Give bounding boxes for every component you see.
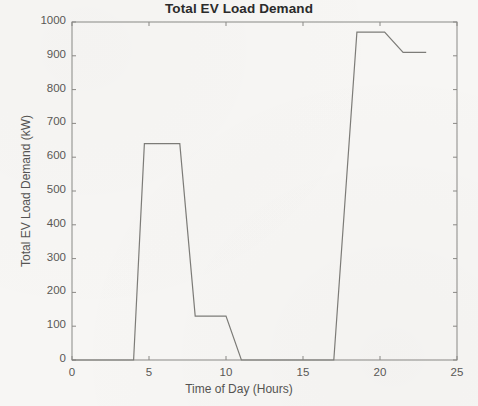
x-tick-label: 10	[208, 366, 244, 378]
y-axis-label: Total EV Load Demand (kW)	[19, 71, 33, 311]
x-axis-label: Time of Day (Hours)	[0, 382, 478, 396]
y-tick-label: 900	[20, 48, 66, 60]
load-demand-line	[72, 32, 426, 360]
y-tick-label: 1000	[20, 14, 66, 26]
y-tick-label: 100	[20, 318, 66, 330]
x-tick-label: 15	[285, 366, 321, 378]
x-tick-label: 25	[439, 366, 475, 378]
chart-figure: Total EV Load Demand 0100200300400500600…	[0, 0, 478, 406]
x-axis-ticks	[72, 22, 457, 360]
plot-area	[0, 0, 478, 406]
x-tick-label: 0	[54, 366, 90, 378]
x-tick-label: 5	[131, 366, 167, 378]
y-axis-ticks	[72, 22, 457, 360]
x-tick-label: 20	[362, 366, 398, 378]
y-tick-label: 0	[20, 352, 66, 364]
axes-box	[72, 22, 457, 360]
